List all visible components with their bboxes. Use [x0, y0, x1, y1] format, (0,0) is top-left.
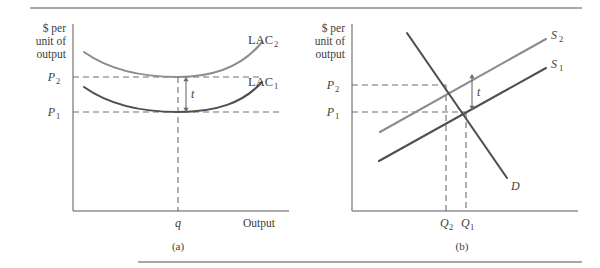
figure-svg: t $ per unit of output P 2 P 1 q Output …: [0, 0, 600, 268]
panel-a-price-low-label: P 1: [47, 105, 61, 121]
panel-a-quantity-label: q: [175, 216, 181, 230]
panel-a-tax-marker: t: [183, 77, 195, 112]
panel-a-price-high-subscript: 2: [56, 76, 60, 86]
panel-b-price-low-subscript: 1: [335, 111, 339, 121]
panel-b-y-axis-label-line2: unit of: [315, 35, 346, 47]
panel-a-curve-lac1: [84, 82, 262, 112]
panel-a-curve-label-lac2-subscript: 2: [274, 39, 278, 49]
panel-a: t $ per unit of output P 2 P 1 q Output …: [36, 22, 289, 253]
panel-a-caption: (a): [172, 240, 185, 253]
panel-a-curve-label-lac1-subscript: 1: [274, 81, 278, 91]
panel-a-y-axis-label-line2: unit of: [36, 35, 67, 47]
panel-b-price-high-label: P 2: [326, 78, 340, 94]
panel-b-price-low-symbol: P: [326, 105, 335, 119]
panel-b-price-high-symbol: P: [326, 78, 335, 92]
panel-b-quantity2-label: Q 2: [440, 216, 453, 232]
panel-b-curve-label-s1-text: S: [551, 57, 557, 71]
panel-b-quantity1-symbol: Q: [461, 216, 470, 230]
panel-b-caption: (b): [456, 240, 469, 253]
panel-a-curve-label-lac2-text: LAC: [248, 33, 273, 47]
panel-b-quantity2-subscript: 2: [449, 222, 453, 232]
panel-a-price-high-label: P 2: [47, 70, 61, 86]
panel-b-y-axis-label-line1: $ per: [322, 22, 345, 35]
panel-b-price-high-subscript: 2: [335, 84, 339, 94]
panel-b-price-low-label: P 1: [326, 105, 340, 121]
panel-a-price-low-symbol: P: [47, 105, 56, 119]
panel-b-quantity2-symbol: Q: [440, 216, 449, 230]
panel-b-quantity1-label: Q 1: [461, 216, 474, 232]
panel-b-y-axis-label-line3: output: [316, 48, 346, 61]
panel-b-curve-label-s2: S 2: [551, 28, 563, 44]
panel-b-tax-label: t: [477, 85, 481, 99]
economics-figure: t $ per unit of output P 2 P 1 q Output …: [0, 0, 600, 268]
panel-a-curve-label-lac1: LAC 1: [248, 75, 278, 91]
panel-a-curve-label-lac1-text: LAC: [248, 75, 273, 89]
panel-b-curve-label-s2-text: S: [551, 28, 557, 42]
panel-a-curve-label-lac2: LAC 2: [248, 33, 278, 49]
panel-b-curve-d: [407, 33, 507, 178]
panel-a-curve-lac2: [84, 42, 262, 77]
panel-a-price-low-subscript: 1: [56, 111, 60, 121]
panel-b-curve-label-d: D: [510, 179, 520, 193]
panel-b-quantity1-subscript: 1: [470, 222, 474, 232]
panel-a-tax-label: t: [191, 87, 195, 101]
panel-b-curve-label-s1: S 1: [551, 57, 563, 73]
panel-b: t $ per unit of output P 2 P 1 Q 2 Q 1 S…: [315, 22, 578, 253]
panel-b-curve-label-s2-subscript: 2: [559, 34, 563, 44]
panel-a-y-axis-label-line1: $ per: [43, 22, 66, 35]
panel-a-y-axis-label-line3: output: [37, 48, 67, 61]
panel-b-curve-label-s1-subscript: 1: [559, 63, 563, 73]
panel-a-x-axis-label: Output: [243, 217, 276, 230]
panel-a-price-high-symbol: P: [47, 70, 56, 84]
